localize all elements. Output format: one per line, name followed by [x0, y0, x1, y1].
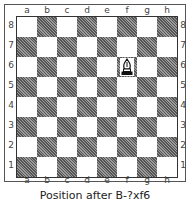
square-a4[interactable] — [17, 97, 37, 117]
square-b8[interactable] — [37, 17, 57, 37]
square-g6[interactable] — [137, 57, 157, 77]
square-d5[interactable] — [77, 77, 97, 97]
file-label-f: f — [117, 175, 137, 185]
rank-label-8: 8 — [6, 20, 16, 30]
square-c7[interactable] — [57, 37, 77, 57]
file-label-e: e — [97, 5, 117, 15]
square-f8[interactable] — [117, 17, 137, 37]
rank-label-8: 8 — [178, 20, 188, 30]
rank-label-7: 7 — [6, 40, 16, 50]
square-d6[interactable] — [77, 57, 97, 77]
rank-label-5: 5 — [6, 80, 16, 90]
square-d8[interactable] — [77, 17, 97, 37]
square-e1[interactable] — [97, 157, 117, 177]
rank-label-2: 2 — [6, 140, 16, 150]
square-f3[interactable] — [117, 117, 137, 137]
rank-label-1: 1 — [6, 160, 16, 170]
square-g7[interactable] — [137, 37, 157, 57]
square-h8[interactable] — [157, 17, 177, 37]
square-e6[interactable] — [97, 57, 117, 77]
file-label-g: g — [137, 175, 157, 185]
rank-label-3: 3 — [178, 120, 188, 130]
chessboard — [16, 16, 178, 178]
file-label-b: b — [37, 175, 57, 185]
rank-label-5: 5 — [178, 80, 188, 90]
square-b3[interactable] — [37, 117, 57, 137]
square-b6[interactable] — [37, 57, 57, 77]
square-g4[interactable] — [137, 97, 157, 117]
square-f2[interactable] — [117, 137, 137, 157]
square-g5[interactable] — [137, 77, 157, 97]
square-b2[interactable] — [37, 137, 57, 157]
square-c8[interactable] — [57, 17, 77, 37]
square-f6[interactable] — [117, 57, 137, 77]
square-e2[interactable] — [97, 137, 117, 157]
square-h3[interactable] — [157, 117, 177, 137]
square-a8[interactable] — [17, 17, 37, 37]
square-c3[interactable] — [57, 117, 77, 137]
square-b7[interactable] — [37, 37, 57, 57]
file-label-a: a — [17, 175, 37, 185]
file-label-b: b — [37, 5, 57, 15]
square-c2[interactable] — [57, 137, 77, 157]
file-label-f: f — [117, 5, 137, 15]
square-g2[interactable] — [137, 137, 157, 157]
square-f5[interactable] — [117, 77, 137, 97]
file-label-g: g — [137, 5, 157, 15]
rank-label-6: 6 — [6, 60, 16, 70]
square-h4[interactable] — [157, 97, 177, 117]
rank-label-1: 1 — [178, 160, 188, 170]
file-label-d: d — [77, 5, 97, 15]
file-label-c: c — [57, 5, 77, 15]
rank-label-7: 7 — [178, 40, 188, 50]
square-e5[interactable] — [97, 77, 117, 97]
square-a5[interactable] — [17, 77, 37, 97]
rank-label-4: 4 — [178, 100, 188, 110]
square-h5[interactable] — [157, 77, 177, 97]
file-label-h: h — [157, 5, 177, 15]
square-a6[interactable] — [17, 57, 37, 77]
square-d7[interactable] — [77, 37, 97, 57]
square-a1[interactable] — [17, 157, 37, 177]
square-h7[interactable] — [157, 37, 177, 57]
square-e8[interactable] — [97, 17, 117, 37]
square-b4[interactable] — [37, 97, 57, 117]
square-c4[interactable] — [57, 97, 77, 117]
file-label-h: h — [157, 175, 177, 185]
square-f4[interactable] — [117, 97, 137, 117]
square-g8[interactable] — [137, 17, 157, 37]
white-bishop-icon[interactable] — [120, 58, 134, 76]
square-e7[interactable] — [97, 37, 117, 57]
square-e4[interactable] — [97, 97, 117, 117]
rank-label-4: 4 — [6, 100, 16, 110]
square-g3[interactable] — [137, 117, 157, 137]
file-label-a: a — [17, 5, 37, 15]
file-label-e: e — [97, 175, 117, 185]
square-a7[interactable] — [17, 37, 37, 57]
square-b1[interactable] — [37, 157, 57, 177]
file-label-c: c — [57, 175, 77, 185]
square-h1[interactable] — [157, 157, 177, 177]
square-d1[interactable] — [77, 157, 97, 177]
rank-label-3: 3 — [6, 120, 16, 130]
square-f1[interactable] — [117, 157, 137, 177]
diagram-caption: Position after B-?xf6 — [0, 189, 190, 202]
square-d3[interactable] — [77, 117, 97, 137]
square-g1[interactable] — [137, 157, 157, 177]
square-d2[interactable] — [77, 137, 97, 157]
square-d4[interactable] — [77, 97, 97, 117]
rank-label-2: 2 — [178, 140, 188, 150]
square-b5[interactable] — [37, 77, 57, 97]
square-e3[interactable] — [97, 117, 117, 137]
square-a2[interactable] — [17, 137, 37, 157]
square-a3[interactable] — [17, 117, 37, 137]
square-c6[interactable] — [57, 57, 77, 77]
square-h2[interactable] — [157, 137, 177, 157]
square-f7[interactable] — [117, 37, 137, 57]
file-label-d: d — [77, 175, 97, 185]
square-h6[interactable] — [157, 57, 177, 77]
square-c5[interactable] — [57, 77, 77, 97]
square-c1[interactable] — [57, 157, 77, 177]
rank-label-6: 6 — [178, 60, 188, 70]
